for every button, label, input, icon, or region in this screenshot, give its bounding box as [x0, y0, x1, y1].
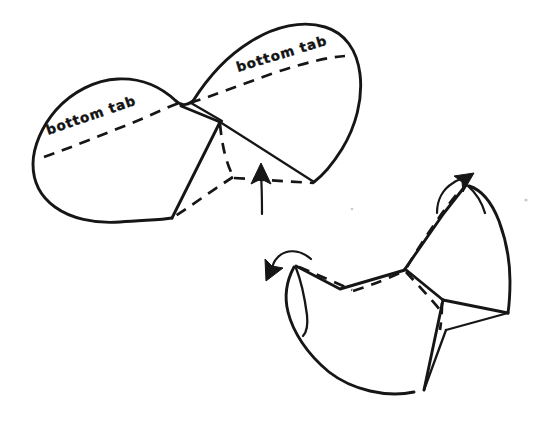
left-bottom-tab-label-text: bottom tab [44, 92, 138, 138]
folded-center-valley-edge [405, 269, 443, 300]
origami-fold-diagram: bottom tab bottom tab [0, 0, 549, 429]
diagram-canvas: bottom tab bottom tab [0, 0, 549, 429]
rotate-left-arrow [265, 251, 311, 281]
left-lobe-outline [33, 79, 176, 222]
rotate-right-arrow [437, 173, 474, 213]
folded-dashed-center-ridge [353, 271, 404, 291]
right-bottom-tab-label: bottom tab [234, 32, 329, 75]
fold-up-arrow [251, 163, 271, 214]
right-bottom-tab-label-text: bottom tab [234, 32, 329, 75]
step-flat-pattern: bottom tab bottom tab [33, 24, 361, 222]
rotate-right-arrow-stem [437, 179, 464, 213]
center-flap-right-edge [220, 122, 314, 182]
step-folded-form [265, 173, 510, 394]
folded-dashed-left-ridge [299, 267, 352, 290]
folded-left-panel-top-edge [296, 266, 405, 289]
fold-up-arrow-stem [261, 176, 262, 214]
folded-right-panel-edge [405, 185, 466, 269]
folded-left-edge-flap [296, 268, 307, 336]
folded-dashed-valley-drop [406, 272, 441, 311]
paper-speck-2 [351, 208, 354, 211]
center-flap-horizontal-dashed [234, 178, 314, 183]
paper-speck [524, 198, 527, 201]
left-bottom-tab-label: bottom tab [44, 92, 138, 138]
folded-right-flap-upper-edge [443, 300, 508, 313]
center-flap-hidden-fold [220, 124, 233, 176]
folded-right-peak-outline [469, 186, 510, 313]
folded-right-flap-lower-edge [446, 313, 508, 330]
